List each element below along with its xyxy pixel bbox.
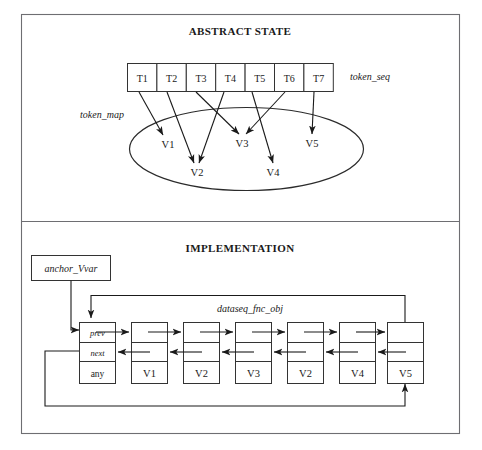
diagram-canvas: ABSTRACT STATE IMPLEMENTATION T1 T2 T3 T…	[0, 0, 482, 450]
anchor-value-label: any	[91, 369, 105, 379]
map-arrow-t4-v2	[199, 92, 224, 163]
token-label: T6	[284, 73, 295, 84]
value-label: V4	[267, 167, 281, 178]
token-seq-group: T1 T2 T3 T4 T5 T6 T7	[128, 64, 334, 92]
map-arrow-t1-v1	[139, 92, 163, 135]
map-arrow-t7-v5	[312, 92, 314, 134]
figure-root: ABSTRACT STATE IMPLEMENTATION T1 T2 T3 T…	[0, 0, 482, 450]
anchor-prev-label: prev	[89, 328, 105, 338]
value-label: V2	[191, 167, 204, 178]
map-arrow-t5-v4	[252, 92, 273, 163]
node-value-label: V5	[399, 368, 412, 379]
token-label: T2	[166, 73, 177, 84]
map-arrow-t6-v3	[246, 92, 285, 134]
node-value-label: V1	[143, 368, 156, 379]
value-label: V1	[162, 139, 175, 150]
token-seq-label: token_seq	[350, 71, 390, 82]
value-label: V3	[236, 138, 249, 149]
value-labels-group: V1 V2 V3 V4 V5	[162, 138, 319, 178]
node-prev-cell	[388, 323, 424, 343]
dataseq-fnc-obj-label: dataseq_fnc_obj	[217, 303, 283, 314]
token-label: T7	[313, 73, 324, 84]
map-arrow-t2-v2	[167, 92, 194, 163]
node-value-label: V3	[247, 368, 260, 379]
token-label: T5	[254, 73, 265, 84]
node-value-label: V2	[299, 368, 312, 379]
anchor-vvar-label: anchor_Vvar	[45, 263, 98, 274]
anchor-next-label: next	[90, 348, 105, 358]
token-label: T3	[195, 73, 206, 84]
abstract-state-title: ABSTRACT STATE	[189, 25, 292, 37]
list-node: V5	[388, 323, 424, 384]
token-label: T1	[137, 73, 148, 84]
map-arrow-t3-v3	[196, 92, 239, 134]
token-label: T4	[225, 73, 236, 84]
anchor-pointer-link	[71, 281, 79, 331]
implementation-title: IMPLEMENTATION	[185, 242, 294, 254]
value-label: V5	[306, 138, 319, 149]
node-value-label: V2	[195, 368, 208, 379]
token-map-label: token_map	[80, 109, 124, 120]
token-map-arrows	[139, 92, 314, 163]
node-value-label: V4	[351, 368, 365, 379]
